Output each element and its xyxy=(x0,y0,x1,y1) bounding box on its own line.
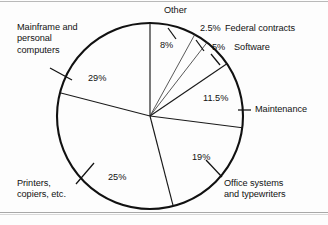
leader-tick-other xyxy=(168,28,176,39)
slice-value-federal: 2.5% xyxy=(200,23,221,34)
slice-label-printers-line1: Printers, xyxy=(17,178,51,188)
slice-label-office-systems: Office systems and typewriters xyxy=(224,178,324,201)
slice-label-printers-line2: copiers, etc. xyxy=(17,189,66,199)
slice-value-printers: 25% xyxy=(108,172,126,183)
slice-value-software: 5% xyxy=(212,42,225,53)
slice-label-federal-contracts: Federal contracts xyxy=(225,23,295,34)
pie-chart-figure: Other 2.5% Federal contracts 5% Software… xyxy=(0,0,328,225)
slice-label-mainframe-line1: Mainframe and xyxy=(17,22,78,32)
slice-label-maintenance: Maintenance xyxy=(255,104,307,115)
slice-boundary-office-end xyxy=(150,116,173,206)
slice-label-mainframe: Mainframe and personal computers xyxy=(17,22,109,56)
slice-label-printers: Printers, copiers, etc. xyxy=(17,178,107,201)
slice-value-office-systems: 19% xyxy=(192,152,210,163)
leader-tick-federal xyxy=(196,40,204,51)
slice-value-mainframe: 29% xyxy=(88,73,106,84)
slice-boundary-federal-end xyxy=(150,43,207,117)
leader-tick-software xyxy=(211,54,220,65)
slice-boundary-maintenance-end xyxy=(150,116,242,128)
slice-boundary-printers-end xyxy=(60,93,150,116)
slice-value-maintenance: 11.5% xyxy=(203,93,228,104)
slice-label-office-systems-line2: and typewriters xyxy=(224,189,286,199)
slice-value-other: 8% xyxy=(160,40,173,51)
slice-label-mainframe-line3: computers xyxy=(17,45,59,55)
slice-label-mainframe-line2: personal xyxy=(17,33,52,43)
slice-label-office-systems-line1: Office systems xyxy=(224,178,283,188)
slice-boundary-software-end xyxy=(150,64,227,116)
slice-label-software: Software xyxy=(234,42,270,53)
slice-label-other: Other xyxy=(164,5,187,16)
